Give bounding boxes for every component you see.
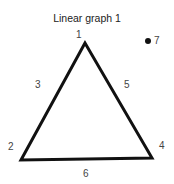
isolated-vertex-dot [145, 38, 151, 44]
vertex-label-4: 4 [159, 141, 165, 151]
vertex-label-1: 1 [76, 30, 82, 40]
edge-label-3: 3 [35, 80, 41, 90]
vertex-label-7: 7 [154, 36, 160, 46]
edge-label-6: 6 [83, 169, 89, 179]
edge-label-5: 5 [124, 80, 130, 90]
triangle-edges [21, 43, 152, 160]
vertex-label-2: 2 [8, 142, 14, 152]
triangle-graph [0, 0, 174, 184]
